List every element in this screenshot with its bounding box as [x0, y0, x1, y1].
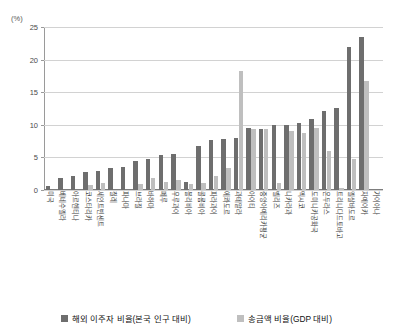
bar	[234, 138, 238, 190]
x-axis-label: 우루과이	[172, 191, 178, 215]
bar	[327, 151, 331, 190]
bar	[239, 71, 243, 190]
bar	[359, 37, 363, 190]
x-axis-label: 베네수엘라	[59, 191, 65, 221]
x-axis-label: 중앙아메리카평균	[260, 191, 266, 239]
x-axis-label: 에콰도르	[222, 191, 228, 215]
x-axis-label: 파라과이	[210, 191, 216, 215]
x-axis-label: 가이아나	[373, 191, 379, 215]
x-axis-label: 니카라과	[285, 191, 291, 215]
x-axis-label: 세인트빈센트	[97, 191, 103, 227]
bar	[184, 182, 188, 190]
bar	[277, 183, 281, 190]
bar	[339, 188, 343, 190]
y-axis-tick-label: 20	[12, 56, 38, 65]
bar	[364, 81, 368, 190]
bar	[189, 184, 193, 190]
x-axis-label: 브라질	[134, 191, 140, 209]
legend-swatch-remittance	[237, 315, 244, 322]
chart-legend: 해외 이주자 비율(본국 인구 대비) 송금액 비율(GDP 대비)	[0, 312, 393, 324]
bar	[221, 139, 225, 190]
x-axis-label: 트리니다드토바고	[335, 191, 341, 239]
bar	[226, 168, 230, 190]
bar	[176, 180, 180, 190]
x-axis-label: 콜롬비아	[197, 191, 203, 215]
bar-series-container	[44, 27, 383, 190]
bar	[58, 178, 62, 190]
bar	[121, 167, 125, 190]
y-axis-unit-label: (%)	[11, 14, 23, 23]
bar	[83, 172, 87, 190]
bar	[209, 140, 213, 190]
bar	[297, 123, 301, 190]
legend-item-migrants: 해외 이주자 비율(본국 인구 대비)	[61, 312, 191, 324]
legend-label-migrants: 해외 이주자 비율(본국 인구 대비)	[72, 312, 191, 324]
x-axis-label: 미국	[46, 191, 52, 203]
bar	[334, 108, 338, 190]
bar	[196, 146, 200, 190]
bar	[101, 183, 105, 190]
bar	[159, 155, 163, 190]
bar	[138, 184, 142, 190]
y-axis-tick-label: 15	[12, 88, 38, 97]
y-axis-tick-label: 5	[12, 153, 38, 162]
bar	[259, 129, 263, 190]
x-axis-label: 페루	[159, 191, 165, 203]
x-axis-label: 멕시코	[298, 191, 304, 209]
bar	[289, 131, 293, 190]
bar	[272, 125, 276, 190]
x-axis-label: 자메이카	[360, 191, 366, 215]
x-axis-label: 코스타리카	[84, 191, 90, 221]
bar	[264, 129, 268, 190]
bar	[246, 128, 250, 190]
bar	[146, 159, 150, 190]
bar	[302, 133, 306, 190]
bar	[309, 119, 313, 190]
plot-area	[44, 27, 383, 190]
x-axis-label: 볼리비아	[185, 191, 191, 215]
x-axis-label: 칠레	[109, 191, 115, 203]
x-axis-label: 도미니카공화국	[310, 191, 316, 233]
bar	[88, 185, 92, 190]
bar	[164, 182, 168, 190]
bar	[214, 176, 218, 190]
bar-chart: (%) 0510152025 미국베네수엘라아르헨티나코스타리카세인트빈센트칠레…	[0, 0, 393, 336]
x-axis-label: 엘살바도르	[348, 191, 354, 221]
x-axis-label: 과테말라	[235, 191, 241, 215]
x-axis-label: 파나마	[122, 191, 128, 209]
x-axis-label: 벨리즈	[272, 191, 278, 209]
bar	[108, 168, 112, 190]
bar	[251, 129, 255, 190]
bar	[133, 161, 137, 190]
bar	[71, 176, 75, 190]
x-axis-labels: 미국베네수엘라아르헨티나코스타리카세인트빈센트칠레파나마브라질바하마페루우루과이…	[44, 191, 383, 291]
bar	[96, 171, 100, 190]
x-axis-label: 바하마	[147, 191, 153, 209]
y-axis-tick-label: 10	[12, 121, 38, 130]
bar	[46, 186, 50, 190]
legend-label-remittance: 송금액 비율(GDP 대비)	[248, 312, 332, 324]
y-axis-tick-label: 25	[12, 23, 38, 32]
bar	[352, 159, 356, 190]
y-axis-tick-label: 0	[12, 186, 38, 195]
bar	[201, 183, 205, 190]
legend-item-remittance: 송금액 비율(GDP 대비)	[237, 312, 332, 324]
bar	[151, 178, 155, 190]
x-axis-label: 온두라스	[323, 191, 329, 215]
x-axis-label: 아이티	[247, 191, 253, 209]
bar	[171, 154, 175, 191]
bar	[284, 125, 288, 190]
x-axis-label: 아르헨티나	[72, 191, 78, 221]
legend-swatch-migrants	[61, 315, 68, 322]
bar	[314, 128, 318, 190]
bar	[322, 111, 326, 190]
bar	[347, 47, 351, 190]
